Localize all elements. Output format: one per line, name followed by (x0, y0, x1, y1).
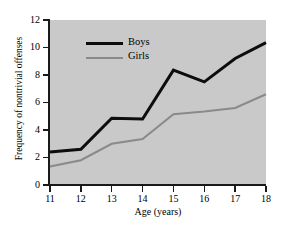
legend-swatch-boys (86, 42, 123, 45)
legend-label-boys: Boys (128, 35, 150, 49)
legend-label-girls: Girls (128, 49, 149, 63)
x-axis-title: Age (years) (50, 206, 266, 217)
series-line-boys (50, 43, 266, 152)
line-chart-figure: Frequency of nontrivial offenses 0246810… (0, 0, 281, 230)
legend-swatch-girls (86, 57, 123, 59)
series-line-girls (50, 94, 266, 166)
